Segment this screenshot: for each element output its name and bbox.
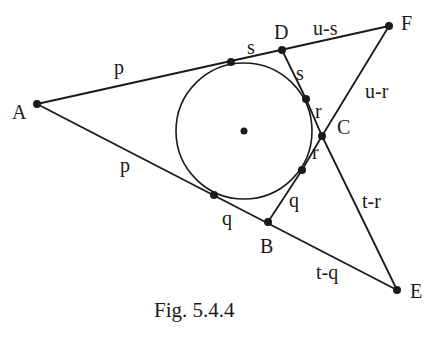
figure-caption: Fig. 5.4.4 [154, 298, 235, 322]
point-D [278, 46, 286, 54]
center-point [241, 128, 248, 135]
seg-label-p-lower: p [120, 154, 130, 177]
point-A [33, 100, 41, 108]
point-B [264, 218, 272, 226]
label-D: D [274, 21, 288, 43]
seg-label-t-r: t-r [362, 190, 381, 212]
point-E [393, 286, 401, 294]
seg-label-q-right: q [289, 189, 299, 212]
seg-label-q-left: q [222, 207, 232, 230]
seg-label-s-top: s [247, 36, 255, 58]
tangent-point-upper [302, 95, 310, 103]
label-A: A [12, 101, 27, 123]
tangent-point-AD [227, 58, 235, 66]
line-DB [268, 50, 282, 222]
label-C: C [337, 116, 350, 138]
point-C [318, 132, 326, 140]
label-E: E [410, 280, 422, 302]
label-B: B [260, 235, 273, 257]
seg-label-s-side: s [296, 62, 304, 84]
label-F: F [401, 12, 412, 34]
tangent-point-AB [210, 191, 218, 199]
seg-label-u-s: u-s [313, 17, 338, 39]
geometry-figure: A D F C B E p p s s u-s u-r r r q q t-r … [0, 0, 447, 342]
seg-label-p-upper: p [114, 56, 124, 79]
seg-label-u-r: u-r [365, 80, 389, 102]
seg-label-r-upper: r [315, 100, 322, 122]
point-F [385, 22, 393, 30]
seg-label-r-lower: r [312, 141, 319, 163]
tangent-point-lower [298, 166, 306, 174]
seg-label-t-q: t-q [316, 261, 338, 284]
